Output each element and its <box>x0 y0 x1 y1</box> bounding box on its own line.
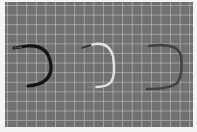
black-u-wire <box>14 46 51 86</box>
dark-gray-u-wire <box>147 45 182 89</box>
u-wires-illustration <box>0 0 197 132</box>
photo <box>0 0 197 132</box>
white-u-wire <box>91 44 114 87</box>
